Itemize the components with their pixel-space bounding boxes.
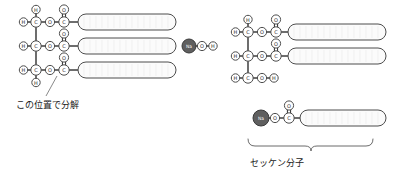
atom-label-r-c-middle: C <box>246 53 250 59</box>
diagram-canvas: H H C O C O <box>0 0 395 182</box>
fatty-chain-r2 <box>288 48 386 64</box>
atom-label-carbonyl-o-3: O <box>62 55 66 61</box>
atom-label-na-soap: Na <box>258 116 264 121</box>
atom-label-h-middle-left: H <box>22 43 26 49</box>
atom-label-h-bottom-left: H <box>22 67 26 73</box>
soap-caption-text: セッケン分子 <box>250 158 304 168</box>
cleavage-leader-line <box>46 76 57 96</box>
atom-label-carbonyl-c-1: C <box>62 19 66 25</box>
atom-label-h-top-up: H <box>34 7 38 13</box>
atom-label-ester-o-2: O <box>48 43 52 49</box>
saponification-diagram: H H C O C O <box>0 0 395 182</box>
atom-label-soap-o-ionic: O <box>273 115 277 121</box>
atom-label-r-carbonyl-c-2: C <box>274 53 278 59</box>
fatty-chain-3 <box>78 62 176 78</box>
atom-label-r-carbonyl-o-1: O <box>274 17 278 23</box>
atom-label-r-h-top-up: H <box>246 17 250 23</box>
atom-label-r-c-top: C <box>246 29 250 35</box>
atom-label-c-top: C <box>34 19 38 25</box>
atom-label-r-h-bottom-left: H <box>234 75 238 81</box>
fatty-chain-1 <box>78 14 176 30</box>
atom-label-c-middle: C <box>34 43 38 49</box>
atom-label-soap-o-carbonyl: O <box>287 103 291 109</box>
atom-label-r-carbonyl-o-2: O <box>274 41 278 47</box>
fatty-chain-soap <box>300 110 386 126</box>
atom-label-free-hydroxyl-o: O <box>260 75 264 81</box>
atom-label-r-ester-o-2: O <box>260 53 264 59</box>
atom-label-free-hydroxyl-h: H <box>272 75 276 81</box>
cleavage-annotation-text: この位置で分解 <box>16 99 79 110</box>
atom-label-ester-o-1: O <box>48 19 52 25</box>
reagent-naoh: Na O H <box>182 39 217 53</box>
soap-molecule: Na O C O <box>253 101 386 126</box>
atom-label-h-top-left: H <box>22 19 26 25</box>
atom-label-h-bottom-down: H <box>34 80 38 86</box>
fatty-chain-r1 <box>288 24 386 40</box>
atom-label-carbonyl-c-2: C <box>62 43 66 49</box>
atom-label-carbonyl-c-3: C <box>62 67 66 73</box>
atom-label-carbonyl-o-2: O <box>62 31 66 37</box>
atom-label-r-c-bottom: C <box>246 75 250 81</box>
atom-label-c-bottom: C <box>34 67 38 73</box>
soap-brace <box>248 139 373 151</box>
atom-label-r-h-top-left: H <box>234 29 238 35</box>
atom-label-carbonyl-o-1: O <box>62 7 66 13</box>
atom-label-r-carbonyl-c-1: C <box>274 29 278 35</box>
left-triglyceride: H H C O C O <box>19 5 176 87</box>
right-glycerol-partial: H H C O C O <box>231 15 386 83</box>
atom-label-h-reagent: H <box>211 43 215 49</box>
fatty-chain-2 <box>78 38 176 54</box>
atom-label-ester-o-3: O <box>48 67 52 73</box>
atom-label-r-ester-o-1: O <box>260 29 264 35</box>
atom-label-soap-c-carbonyl: C <box>287 115 291 121</box>
atom-label-r-h-middle-left: H <box>234 53 238 59</box>
atom-label-na-reagent: Na <box>186 44 192 49</box>
atom-label-o-reagent: O <box>200 43 204 49</box>
